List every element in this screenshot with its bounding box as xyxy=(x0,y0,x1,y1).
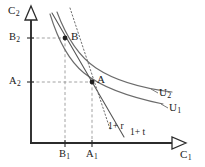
y-axis-arrowhead xyxy=(25,6,37,20)
budget-line-tax xyxy=(52,13,124,137)
budget-label-interest: 1+ r xyxy=(108,122,124,132)
guide-lines xyxy=(31,38,92,143)
indifference-curve-diagram: C2 C1 B2 A2 B1 A1 B A U2 U1 1+ r 1+ t xyxy=(0,0,205,167)
x-axis-label: C1 xyxy=(180,149,192,162)
curve-label-u1: U1 xyxy=(169,102,181,115)
point-marker-a xyxy=(90,80,95,85)
point-marker-b xyxy=(63,36,68,41)
y-axis-label: C2 xyxy=(8,5,20,18)
budget-label-tax: 1+ t xyxy=(130,128,145,138)
curve-label-u2: U2 xyxy=(159,87,171,100)
budget-line-interest xyxy=(70,8,110,129)
indifference-curve-u1 xyxy=(50,14,163,104)
point-label-a: A xyxy=(97,74,105,85)
y-tick-label-a2: A2 xyxy=(9,76,21,88)
point-label-b: B xyxy=(71,31,78,42)
tick-marks xyxy=(27,38,92,147)
leader-u1 xyxy=(161,104,168,108)
y-tick-label-b2: B2 xyxy=(9,32,20,44)
x-tick-label-b1: B1 xyxy=(59,149,70,161)
x-tick-label-a1: A1 xyxy=(86,149,98,161)
